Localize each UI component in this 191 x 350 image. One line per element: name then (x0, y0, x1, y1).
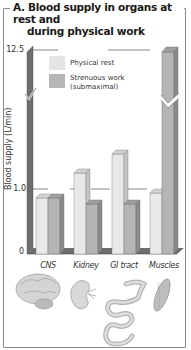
muscle-icon (151, 277, 174, 313)
reference-lines (30, 50, 150, 189)
bars-gi-tract (112, 150, 140, 254)
category-label-muscles: Muscles (144, 261, 184, 270)
legend-label-work: Strenuous work (submaximal) (70, 74, 125, 92)
brain-icon (16, 274, 60, 309)
legend-label-work-line1: Strenuous work (70, 74, 125, 82)
legend-label-work-line2: (submaximal) (70, 83, 118, 91)
category-label-cns: CNS (28, 261, 68, 270)
category-label-gi-tract: GI tract (104, 261, 144, 270)
bars-muscles (150, 47, 179, 254)
legend-swatch-work (49, 74, 65, 88)
bars-cns (36, 194, 64, 254)
kidney-icon (71, 280, 96, 309)
bar-chart (0, 0, 191, 350)
category-label-kidney: Kidney (66, 261, 106, 270)
legend-swatch-rest (49, 56, 65, 70)
intestine-icon (106, 282, 144, 344)
legend-label-rest: Physical rest (70, 59, 114, 68)
y-axis-wall (25, 46, 36, 254)
bars-kidney (74, 169, 102, 254)
